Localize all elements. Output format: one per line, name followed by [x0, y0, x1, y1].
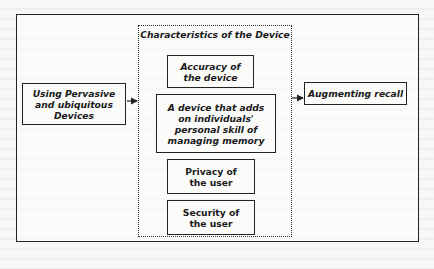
edges-layer: [0, 0, 434, 269]
